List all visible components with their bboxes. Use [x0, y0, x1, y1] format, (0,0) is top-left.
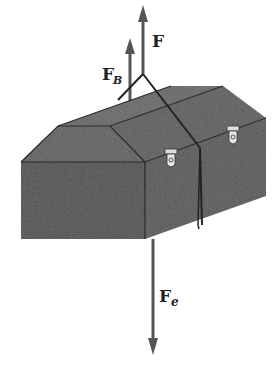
arrow-F-head	[138, 5, 148, 22]
latch-front	[165, 149, 177, 167]
arrow-Fe-head	[148, 338, 158, 355]
label-FB-subscript: B	[112, 74, 122, 87]
label-F: F	[152, 31, 164, 51]
arrow-Fe	[148, 239, 158, 355]
label-Fe: F	[159, 286, 171, 306]
latch-back	[227, 126, 239, 144]
arrow-FB	[125, 38, 135, 108]
label-Fe-subscript: e	[171, 295, 179, 309]
arrow-F	[138, 5, 148, 74]
force-diagram: F F B F e	[0, 0, 276, 369]
arrow-FB-head	[125, 38, 135, 54]
